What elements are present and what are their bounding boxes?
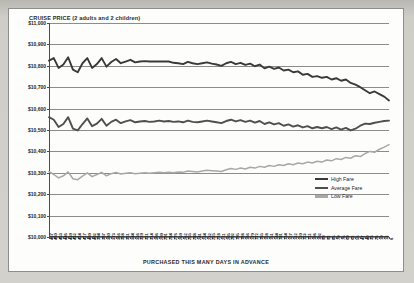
chart-panel: CRUISE PRICE (2 adults and 2 children) $… <box>8 8 404 272</box>
x-tick-label: 12 <box>383 236 388 240</box>
legend-swatch-average-fare <box>315 187 328 189</box>
y-tick-label: $10,100 <box>28 213 46 219</box>
y-tick-label: $10,700 <box>28 84 46 90</box>
y-tick-label: $10,600 <box>28 106 46 112</box>
series-line-average-fare <box>49 117 389 130</box>
x-tick-label: 373 <box>110 233 115 240</box>
y-tick-label: $10,200 <box>28 191 46 197</box>
legend-label-low-fare: Low Fare <box>331 193 353 199</box>
legend-item-low-fare: Low Fare <box>315 192 391 201</box>
x-tick-label: 8 <box>388 238 393 240</box>
x-tick-label: 122 <box>292 233 297 240</box>
x-tick-label: 234 <box>201 233 206 240</box>
legend-swatch-high-fare <box>315 178 328 180</box>
legend-item-average-fare: Average Fare <box>315 184 391 193</box>
y-tick-label: $11,000 <box>28 20 46 26</box>
y-tick-label: $10,300 <box>28 170 46 176</box>
series-lines <box>49 23 389 237</box>
y-tick-label: $10,500 <box>28 127 46 133</box>
y-tick-label: $10,000 <box>28 234 46 240</box>
y-tick-label: $10,800 <box>28 63 46 69</box>
y-tick-label: $10,900 <box>28 41 46 47</box>
series-line-high-fare <box>49 57 389 100</box>
legend-item-high-fare: High Fare <box>315 175 391 184</box>
screenshot-canvas: CRUISE PRICE (2 adults and 2 children) $… <box>0 0 414 283</box>
legend-label-high-fare: High Fare <box>331 176 354 182</box>
y-tick-label: $10,400 <box>28 148 46 154</box>
plot-area: $11,000$10,900$10,800$10,700$10,600$10,5… <box>49 23 389 237</box>
chart-legend: High Fare Average Fare Low Fare <box>315 175 391 201</box>
legend-label-average-fare: Average Fare <box>331 185 362 191</box>
legend-swatch-low-fare <box>315 195 328 197</box>
x-axis-title: PURCHASED THIS MANY DAYS IN ADVANCE <box>9 259 403 265</box>
